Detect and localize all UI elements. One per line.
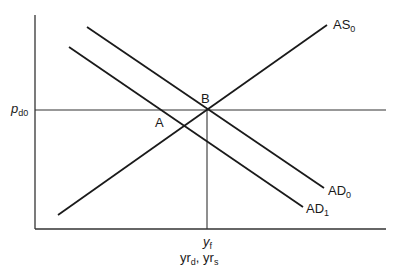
ad-as-diagram <box>0 0 396 275</box>
x-axis-label: yrd, yrs <box>180 251 218 267</box>
point-b-label: B <box>201 92 210 105</box>
ad1-label-sub: 1 <box>324 208 329 218</box>
as0-label-sub: 0 <box>350 24 355 34</box>
x-axis-label-part2-sub: s <box>214 257 219 267</box>
as0-label: AS0 <box>333 18 355 34</box>
x-axis-label-part2-main: yr <box>203 250 214 265</box>
ad0-label: AD0 <box>328 184 351 200</box>
price-level-label-sub: d0 <box>18 108 28 118</box>
ad0-label-sub: 0 <box>346 190 351 200</box>
point-b-text: B <box>201 91 210 106</box>
price-level-label: pd0 <box>11 102 28 118</box>
ad1-label-main: AD <box>306 201 324 216</box>
point-a-label: A <box>155 116 164 129</box>
full-employment-output-label: yf <box>203 235 212 251</box>
ad1-label: AD1 <box>306 202 329 218</box>
point-a-text: A <box>155 115 164 130</box>
as0-curve <box>58 25 327 215</box>
x-axis-label-sep: , <box>196 250 203 265</box>
ad0-label-main: AD <box>328 183 346 198</box>
x-axis-label-part1-main: yr <box>180 250 191 265</box>
as0-label-main: AS <box>333 17 350 32</box>
